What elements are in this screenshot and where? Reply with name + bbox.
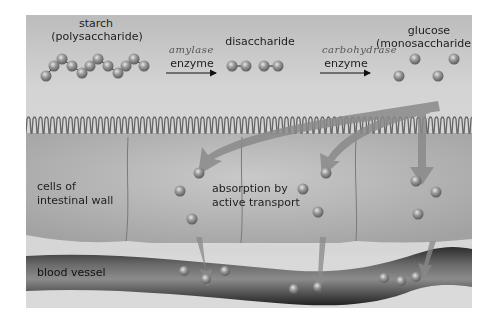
starch-glucose-unit (41, 71, 52, 82)
glucose-label: glucose (386, 24, 472, 37)
amylase-handwritten: amylase (169, 44, 214, 55)
absorption-label-line2: active transport (212, 196, 300, 209)
disaccharide-molecules (227, 61, 284, 72)
starch-glucose-unit (103, 61, 114, 72)
enzyme-label-2: enzyme (321, 57, 371, 70)
starch-glucose-unit (139, 61, 150, 72)
cells-label-line1: cells of (37, 180, 76, 193)
starch-label: starch (56, 17, 136, 30)
starch-glucose-unit (129, 54, 140, 65)
polysaccharide-label: (polysaccharide) (42, 30, 152, 43)
starch-glucose-unit (67, 61, 78, 72)
starch-glucose-unit (93, 54, 104, 65)
disaccharide-label: disaccharide (220, 35, 300, 48)
cells-label-line2: intestinal wall (37, 194, 113, 207)
monosaccharide-label: (monosaccharide) (376, 37, 472, 50)
absorption-label-line1: absorption by (212, 182, 288, 195)
diagram-graphics (26, 15, 472, 308)
starch-glucose-unit (57, 54, 68, 65)
blood-vessel-label: blood vessel (37, 266, 106, 279)
digestion-diagram: starch (polysaccharide) amylase enzyme d… (26, 15, 472, 308)
enzyme-label-1: enzyme (167, 57, 217, 70)
starch-molecule (41, 54, 150, 82)
